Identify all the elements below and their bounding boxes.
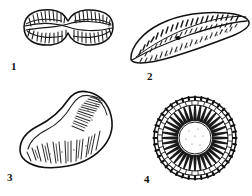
figure-2-puncta [139, 15, 238, 62]
figure-4-centric-valve [154, 97, 237, 180]
figure-4-number-label: 4 [144, 174, 150, 185]
figure-3-number-label: 3 [7, 172, 13, 183]
figure-4-central-area-ring [179, 122, 211, 154]
figure-1-number-label: 1 [11, 61, 17, 72]
figure-2-arcuate-valve [131, 12, 249, 62]
figure-2-number-label: 2 [147, 71, 153, 82]
figure-3-striae [27, 94, 107, 163]
figure-4-central-granules [185, 128, 203, 145]
figure-1-panduriform-valve [24, 10, 113, 45]
figure-1-axial-area [25, 21, 112, 30]
figure-2-central-nodule [175, 36, 180, 40]
illustration-plate: 1 2 3 4 [0, 0, 252, 196]
figure-3-boot-shaped-valve [20, 91, 112, 167]
plate-drawing-canvas [0, 0, 252, 196]
